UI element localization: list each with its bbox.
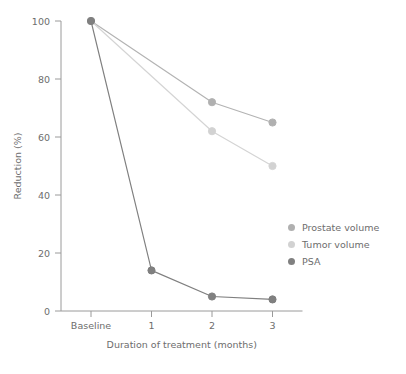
legend-marker-icon (288, 224, 295, 231)
x-axis-title: Duration of treatment (months) (107, 339, 257, 350)
line-chart-plot: 020406080100Baseline123 Duration of trea… (0, 0, 406, 374)
legend-item[interactable]: PSA (288, 253, 404, 270)
data-point-marker (148, 267, 155, 274)
legend-item[interactable]: Prostate volume (288, 219, 404, 236)
data-point-marker (269, 119, 276, 126)
y-tick-label: 60 (38, 132, 50, 143)
legend-item-label: PSA (302, 256, 320, 267)
data-point-marker (208, 99, 215, 106)
y-axis-title: Reduction (%) (12, 133, 23, 200)
chart-figure: 020406080100Baseline123 Duration of trea… (0, 0, 406, 374)
chart-series (87, 17, 276, 303)
data-point-marker (269, 296, 276, 303)
chart-axes: 020406080100Baseline123 (32, 16, 303, 332)
x-tick-label: Baseline (71, 320, 111, 331)
y-tick-label: 0 (44, 306, 50, 317)
y-tick-label: 40 (38, 190, 50, 201)
legend-item-label: Prostate volume (302, 222, 379, 233)
data-point-marker (87, 17, 94, 24)
series-line-1 (91, 21, 273, 166)
legend-item-label: Tumor volume (302, 239, 370, 250)
chart-axis-labels: Duration of treatment (months)Reduction … (12, 133, 257, 350)
y-tick-label: 80 (38, 74, 50, 85)
legend-item[interactable]: Tumor volume (288, 236, 404, 253)
chart-legend: Prostate volumeTumor volumePSA (288, 219, 404, 270)
y-tick-label: 20 (38, 248, 50, 259)
series-line-2 (91, 21, 273, 299)
data-point-marker (269, 162, 276, 169)
series-line-0 (91, 21, 273, 123)
x-tick-label: 1 (148, 320, 154, 331)
data-point-marker (208, 293, 215, 300)
legend-marker-icon (288, 241, 295, 248)
y-tick-label: 100 (32, 16, 50, 27)
data-point-marker (208, 128, 215, 135)
x-tick-label: 3 (269, 320, 275, 331)
x-tick-label: 2 (209, 320, 215, 331)
legend-marker-icon (288, 258, 295, 265)
